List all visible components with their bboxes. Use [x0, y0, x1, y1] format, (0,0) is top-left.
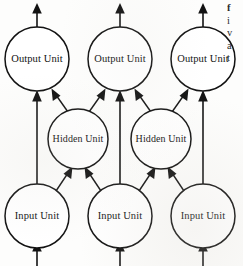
margin-text-line-5: t — [227, 52, 243, 65]
node-input-unit-2: Input Unit — [88, 184, 152, 248]
margin-text-fragment: f i v a t v — [227, 2, 243, 68]
edge-input2-to-output2 — [115, 90, 125, 184]
node-input-unit-2-label: Input Unit — [98, 210, 142, 221]
node-hidden-unit-1: Hidden Unit — [48, 109, 108, 169]
node-hidden-unit-2: Hidden Unit — [131, 109, 191, 169]
node-input-unit-1-label: Input Unit — [15, 210, 59, 221]
margin-text-line-4: a — [227, 40, 243, 53]
edge-hidden2-to-output3 — [172, 89, 189, 113]
edge-input1-to-hidden1 — [56, 167, 73, 192]
node-hidden-unit-2-label: Hidden Unit — [136, 133, 187, 144]
edge-hidden1-to-output1 — [52, 89, 69, 113]
node-output-unit-3: Output Unit — [171, 27, 235, 91]
node-output-unit-1: Output Unit — [5, 27, 69, 91]
node-input-unit-3: Input Unit — [171, 184, 235, 248]
edge-input3-to-hidden2 — [168, 167, 185, 192]
node-input-unit-1: Input Unit — [5, 184, 69, 248]
edge-hidden2-to-output2 — [135, 89, 152, 113]
external-output-arrow-1 — [32, 3, 42, 28]
edge-input1-to-output1 — [32, 90, 42, 184]
node-hidden-unit-1-label: Hidden Unit — [53, 133, 104, 144]
node-input-unit-3-label: Input Unit — [181, 210, 225, 221]
edge-hidden1-to-output2 — [89, 89, 106, 113]
edge-input3-to-output3 — [198, 90, 208, 184]
node-output-unit-1-label: Output Unit — [11, 53, 63, 64]
neural-network-diagram: Output Unit Output Unit Output Unit Hidd… — [0, 0, 243, 266]
node-output-unit-2-label: Output Unit — [94, 53, 146, 64]
node-output-unit-2: Output Unit — [88, 27, 152, 91]
external-output-arrow-2 — [115, 3, 125, 28]
figure-page: Output Unit Output Unit Output Unit Hidd… — [0, 0, 243, 266]
edge-input2-to-hidden1 — [85, 167, 102, 192]
margin-text-line-6: v — [227, 65, 243, 69]
external-output-arrow-3 — [198, 3, 208, 28]
margin-text-line-3: v — [227, 27, 243, 40]
margin-text-line-1: f — [227, 2, 243, 15]
margin-text-line-2: i — [227, 15, 243, 28]
edge-input2-to-hidden2 — [139, 167, 156, 192]
node-output-unit-3-label: Output Unit — [177, 53, 229, 64]
